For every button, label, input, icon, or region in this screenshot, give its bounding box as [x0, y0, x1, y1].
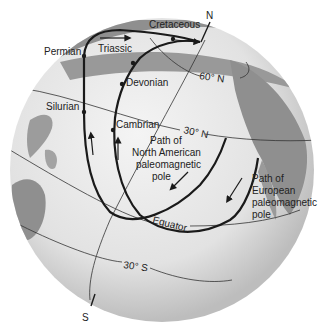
dot-triassic — [131, 61, 135, 65]
north-pole-label: N — [206, 10, 213, 21]
svg-text:paleomagnetic: paleomagnetic — [252, 197, 317, 208]
label-cambrian: Cambrian — [116, 119, 159, 130]
label-devonian: Devonian — [126, 77, 168, 88]
svg-text:European: European — [252, 185, 295, 196]
south-pole-label: S — [82, 312, 89, 323]
svg-text:paleomagnetic: paleomagnetic — [136, 159, 201, 170]
dot-devonian — [120, 82, 124, 86]
svg-text:pole: pole — [252, 209, 271, 220]
dot-cambrian — [111, 128, 115, 132]
globe-diagram: N S Cretaceous Permian Triassic Devonian… — [0, 0, 325, 331]
svg-text:Path of: Path of — [150, 135, 182, 146]
label-permian: Permian — [44, 46, 81, 57]
label-triassic: Triassic — [98, 43, 132, 54]
svg-text:Path of: Path of — [252, 173, 284, 184]
dot-cretaceous — [171, 37, 175, 41]
svg-text:North American: North American — [132, 147, 201, 158]
label-silurian: Silurian — [46, 101, 79, 112]
svg-text:pole: pole — [152, 171, 171, 182]
label-cretaceous: Cretaceous — [149, 19, 200, 30]
dot-silurian — [82, 110, 86, 114]
dot-permian — [82, 54, 86, 58]
